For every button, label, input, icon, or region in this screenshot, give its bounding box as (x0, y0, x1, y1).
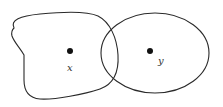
point-x-marker (67, 48, 73, 54)
left-region-boundary (12, 12, 119, 99)
point-y-marker (147, 48, 153, 54)
set-diagram: x y (0, 0, 223, 107)
right-region-boundary (101, 13, 209, 93)
point-y-label: y (157, 55, 164, 66)
point-x-label: x (67, 62, 73, 73)
